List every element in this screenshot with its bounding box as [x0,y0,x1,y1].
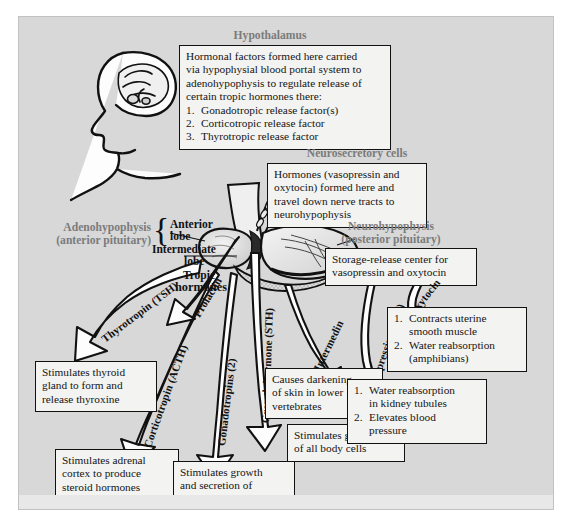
adrenal-effect-line-3: steroid hormones [62,481,172,494]
list-number: 3. [186,130,194,143]
diagram-plate: Hypothalamus Hormonal factors formed her… [18,16,554,510]
list-text: Water reabsorption [409,339,495,351]
neurosecretory-line-1: Hormones (vasopressin and [274,168,420,181]
list-text-cont: smooth muscle [409,325,477,337]
list-text-cont: in kidney tubules [369,397,447,409]
adenohypophysis-brace-icon: { [153,213,169,247]
adrenal-effect-line-1: Stimulates adrenal [62,454,172,467]
gonad-effect-textbox: Stimulates growth and secretion of ovari… [173,461,295,510]
hypothalamus-line-2: via hypophysial blood portal system to [186,63,384,76]
adrenal-effect-line-2: cortex to produce [62,467,172,480]
intermediate-lobe-label-line1: Intermediate [152,243,216,256]
list-item: 3. Thyrotropic release factor [186,130,384,143]
list-text: Thyrotropic release factor [201,130,318,142]
list-text: Contracts uterine [409,312,486,324]
list-item: 2. Water reabsorption (amphibians) [394,339,520,366]
thyroid-effect-line-2: gland to form and [42,379,150,392]
list-number: 2. [354,411,362,424]
list-item: 1. Contracts uterine smooth muscle [394,312,520,339]
adenohypophysis-subheader: (anterior pituitary) [19,234,151,247]
brain-illustration [118,64,168,107]
neurohypophysis-subheader: (posterior pituitary) [323,233,459,246]
list-text: Water reabsorption [369,384,455,396]
neurohypophysis-header: Neurohypophysis [323,220,459,233]
hypothalamus-textbox: Hormonal factors formed here carried via… [179,45,391,150]
hypothalamus-line-4: certain tropic hormones there: [186,90,384,103]
thyroid-effect-line-3: release thyroxine [42,393,150,406]
list-item: 1. Gonadotropic release factor(s) [186,104,384,117]
list-number: 1. [186,104,194,117]
adenohypophysis-header: Adenohypophysis [19,221,151,234]
gonad-effect-line-2: and secretion of [180,479,288,492]
list-text-cont: (amphibians) [409,352,469,364]
list-item: 2. Elevates blood pressure [354,411,480,438]
storage-release-line-1: Storage-release center for [332,253,470,266]
storage-release-textbox: Storage-release center for vasopressin a… [325,248,477,286]
list-text: Corticotropic release factor [201,117,325,129]
vasopressin-effect-list: 1. Water reabsorption in kidney tubules … [354,384,480,438]
thyroid-effect-line-1: Stimulates thyroid [42,366,150,379]
gonad-effect-line-3: ovaries and testis [180,493,288,506]
list-item: 2. Corticotropic release factor [186,117,384,130]
hypothalamus-factor-list: 1. Gonadotropic release factor(s) 2. Cor… [186,104,384,144]
hypothalamus-line-1: Hormonal factors formed here carried [186,50,384,63]
thyroid-effect-textbox: Stimulates thyroid gland to form and rel… [35,361,157,412]
hypothalamus-line-3: adenohypophysis to regulate release of [186,77,384,90]
list-number: 1. [354,384,362,397]
list-text: Elevates blood [369,411,436,423]
list-number: 1. [394,312,402,325]
neurosecretory-line-3: travel down nerve tracts to [274,195,420,208]
list-text: Gonadotropic release factor(s) [201,104,338,116]
storage-release-line-2: vasopressin and oxytocin [332,266,470,279]
oxytocin-effect-list: 1. Contracts uterine smooth muscle 2. Wa… [394,312,520,366]
neurosecretory-line-2: oxytocin) formed here and [274,181,420,194]
list-number: 2. [394,339,402,352]
figure-canvas: Hypothalamus Hormonal factors formed her… [0,0,570,524]
list-number: 2. [186,117,194,130]
growth-effect-line-2: of all body cells [294,442,398,455]
list-text-cont: pressure [369,424,407,436]
gonad-effect-line-1: Stimulates growth [180,466,288,479]
vasopressin-effect-textbox: 1. Water reabsorption in kidney tubules … [347,379,487,444]
adrenal-effect-textbox: Stimulates adrenal cortex to produce ste… [55,449,179,500]
list-item: 1. Water reabsorption in kidney tubules [354,384,480,411]
intermediate-lobe-label-line2: lobe [184,255,204,268]
neurosecretory-cells-header: Neurosecretory cells [267,147,447,160]
anterior-lobe-label-line1: Anterior [170,218,213,231]
hypothalamus-header: Hypothalamus [195,29,345,42]
neurosecretory-textbox: Hormones (vasopressin and oxytocin) form… [267,163,427,228]
anterior-lobe-label-line2: lobe [170,230,190,243]
oxytocin-effect-textbox: 1. Contracts uterine smooth muscle 2. Wa… [387,307,527,372]
